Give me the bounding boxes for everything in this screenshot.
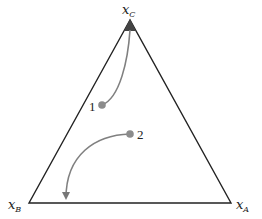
point-1 [98,101,106,109]
ternary-diagram: 1 2 xC xB xA [0,0,262,219]
path-1-curve [102,30,130,105]
point-2-label: 2 [137,127,144,142]
vertex-b-label: xB [8,197,21,214]
vertex-c-label: xC [122,2,135,19]
point-2 [126,130,134,138]
path-2-curve [66,134,130,198]
ternary-triangle [29,20,231,203]
vertex-a-label: xA [236,197,249,214]
point-1-label: 1 [89,99,96,114]
vertex-c-arrowhead-icon [124,19,136,31]
